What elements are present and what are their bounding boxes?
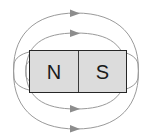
arrowhead-outer-lower [70, 125, 80, 133]
arrowhead-outer-upper [70, 10, 80, 18]
magnetic-field-diagram: N S [0, 0, 152, 140]
magnet-south-pole: S [78, 51, 126, 92]
arrowhead-inner-upper [70, 30, 80, 38]
bar-magnet: N S [29, 50, 127, 93]
north-pole-label: N [47, 62, 61, 82]
south-pole-label: S [96, 62, 109, 82]
magnet-north-pole: N [30, 51, 78, 92]
arrowhead-inner-lower [70, 105, 80, 113]
